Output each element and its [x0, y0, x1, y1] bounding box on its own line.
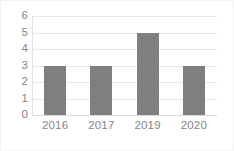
- x-tick-label: 2020: [181, 120, 207, 132]
- y-axis-tick-labels: 0123456: [1, 16, 28, 115]
- y-tick-label: 2: [21, 76, 28, 88]
- y-tick-label: 0: [21, 109, 28, 121]
- bar-chart-figure: 0123456 2016201720192020: [0, 0, 234, 151]
- bar: [90, 66, 112, 116]
- y-tick-label: 1: [21, 93, 28, 105]
- x-tick-label: 2019: [134, 120, 160, 132]
- y-tick-label: 5: [21, 27, 28, 39]
- bar: [44, 66, 66, 116]
- x-tick-label: 2017: [88, 120, 114, 132]
- gridline: [32, 115, 217, 116]
- x-axis-tick-labels: 2016201720192020: [32, 120, 217, 138]
- bar: [183, 66, 205, 116]
- bars-layer: [32, 16, 217, 115]
- y-tick-label: 6: [21, 10, 28, 22]
- y-tick-label: 4: [21, 43, 28, 55]
- x-tick-label: 2016: [42, 120, 68, 132]
- bar: [137, 33, 159, 116]
- y-tick-label: 3: [21, 60, 28, 72]
